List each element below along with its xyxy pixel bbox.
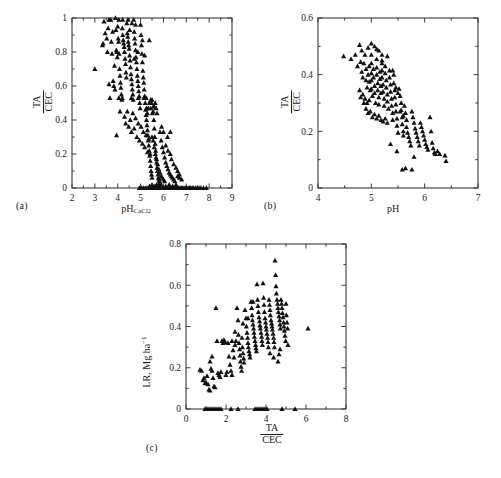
data-point bbox=[415, 134, 420, 139]
data-point bbox=[235, 318, 240, 323]
data-point bbox=[274, 291, 279, 296]
data-point bbox=[242, 307, 247, 312]
data-point bbox=[239, 368, 244, 373]
data-point bbox=[151, 117, 156, 122]
data-point bbox=[168, 129, 173, 134]
data-point bbox=[420, 129, 425, 134]
data-point bbox=[218, 369, 223, 374]
data-point bbox=[273, 272, 278, 277]
data-point bbox=[394, 116, 399, 121]
data-point bbox=[124, 75, 129, 80]
panel-a-ylabel-denominator: CEC bbox=[43, 90, 55, 113]
data-point bbox=[274, 297, 279, 302]
data-point bbox=[120, 26, 125, 31]
data-point bbox=[256, 315, 261, 320]
y-tick-label: 0.4 bbox=[169, 322, 181, 332]
data-point bbox=[278, 297, 283, 302]
data-point bbox=[106, 82, 111, 87]
data-point bbox=[134, 134, 139, 139]
data-point bbox=[130, 111, 135, 116]
data-point bbox=[276, 352, 281, 357]
data-point bbox=[279, 301, 284, 306]
data-point bbox=[123, 70, 128, 75]
y-tick-label: 0.8 bbox=[55, 47, 67, 57]
data-point bbox=[367, 97, 372, 102]
data-point bbox=[114, 133, 119, 138]
data-point bbox=[400, 122, 405, 127]
data-point bbox=[252, 334, 257, 339]
data-point bbox=[148, 158, 153, 163]
data-point bbox=[271, 335, 276, 340]
data-point bbox=[229, 372, 234, 377]
data-point bbox=[305, 326, 310, 331]
data-point bbox=[116, 36, 121, 41]
data-point bbox=[362, 96, 367, 101]
data-point bbox=[159, 124, 164, 129]
y-tick-label: 0.2 bbox=[55, 149, 67, 159]
data-point bbox=[375, 88, 380, 93]
data-point bbox=[127, 53, 132, 58]
data-point bbox=[171, 162, 176, 167]
panel-c: 0246800.20.40.60.8 LR, Mg ha−1 TA CEC (c… bbox=[130, 230, 380, 478]
data-point bbox=[267, 307, 272, 312]
data-point bbox=[261, 295, 266, 300]
panel-a-xlabel-main: pH bbox=[121, 203, 133, 214]
data-point bbox=[122, 56, 127, 61]
data-point bbox=[109, 39, 114, 44]
x-tick-label: 6 bbox=[422, 193, 427, 203]
data-point bbox=[394, 123, 399, 128]
data-point bbox=[256, 309, 261, 314]
data-point bbox=[359, 48, 364, 53]
data-point bbox=[92, 66, 97, 71]
data-point bbox=[122, 49, 127, 54]
data-point bbox=[405, 130, 410, 135]
data-point bbox=[249, 305, 254, 310]
y-tick-label: 0 bbox=[62, 183, 67, 193]
x-tick-label: 4 bbox=[115, 193, 120, 203]
data-point bbox=[393, 85, 398, 90]
data-point bbox=[119, 92, 124, 97]
panel-a-xlabel-sub2: 2 bbox=[148, 208, 151, 214]
data-point bbox=[272, 258, 277, 263]
data-point bbox=[213, 305, 218, 310]
data-point bbox=[165, 134, 170, 139]
data-point bbox=[266, 297, 271, 302]
data-point bbox=[245, 335, 250, 340]
data-point bbox=[393, 102, 398, 107]
data-point bbox=[254, 282, 259, 287]
data-point bbox=[250, 322, 255, 327]
data-point bbox=[129, 77, 134, 82]
data-point bbox=[394, 148, 399, 153]
data-point bbox=[388, 141, 393, 146]
data-point bbox=[163, 143, 168, 148]
data-point bbox=[383, 116, 388, 121]
data-point bbox=[101, 41, 106, 46]
data-point bbox=[389, 103, 394, 108]
data-point bbox=[228, 368, 233, 373]
x-tick-label: 7 bbox=[476, 193, 481, 203]
data-point bbox=[117, 66, 122, 71]
data-point bbox=[360, 92, 365, 97]
data-point bbox=[123, 61, 128, 66]
data-point bbox=[401, 129, 406, 134]
data-point bbox=[379, 58, 384, 63]
panel-a-ylabel: TA CEC bbox=[22, 80, 66, 124]
panel-b-ylabel-denominator: CEC bbox=[291, 90, 303, 113]
data-point bbox=[362, 52, 367, 57]
data-point bbox=[270, 331, 275, 336]
data-point bbox=[249, 312, 254, 317]
data-point bbox=[115, 24, 120, 29]
data-point bbox=[214, 338, 219, 343]
data-point bbox=[283, 338, 288, 343]
data-point bbox=[276, 309, 281, 314]
data-point bbox=[431, 146, 436, 151]
panel-c-xlabel-numerator: TA bbox=[260, 423, 283, 434]
data-point bbox=[128, 65, 133, 70]
data-point bbox=[204, 373, 209, 378]
data-point bbox=[109, 51, 114, 56]
data-point bbox=[209, 354, 214, 359]
data-point bbox=[250, 318, 255, 323]
data-point bbox=[443, 158, 448, 163]
data-point bbox=[355, 63, 360, 68]
panel-a-ylabel-numerator: TA bbox=[32, 90, 43, 113]
